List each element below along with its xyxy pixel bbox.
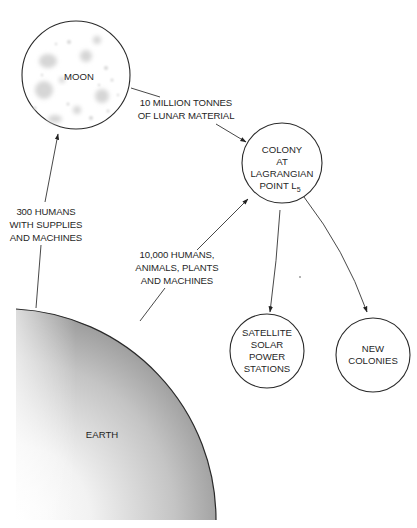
- earth-colony-label-line-1: 10,000 HUMANS,: [140, 249, 215, 260]
- space-colony-diagram: EARTH MOON COLONY: [0, 0, 417, 528]
- new-colonies-node: NEW COLONIES: [336, 318, 410, 392]
- earth-colony-label-line-3: AND MACHINES: [141, 275, 213, 286]
- moon-colony-label-line-2: OF LUNAR MATERIAL: [138, 110, 236, 121]
- moon-label: MOON: [64, 71, 94, 82]
- stray-dot: [299, 276, 301, 278]
- earth-colony-line-lower: [140, 288, 165, 321]
- moon-colony-line-start: [131, 88, 160, 97]
- earth-label: EARTH: [86, 429, 118, 440]
- satellite-node: SATELLITE SOLAR POWER STATIONS: [230, 314, 304, 388]
- moon-node: MOON: [22, 21, 130, 129]
- edge-colony-to-satellite: [270, 210, 280, 312]
- earth-moon-label-line-1: 300 HUMANS: [16, 206, 75, 217]
- colony-point-subscript: 5: [297, 186, 301, 193]
- satellite-label-line-1: SATELLITE: [242, 327, 292, 338]
- satellite-label-line-4: STATIONS: [244, 363, 291, 374]
- colony-label-line-3: LAGRANGIAN: [251, 168, 314, 179]
- new-colonies-label-line-2: COLONIES: [348, 355, 398, 366]
- new-colonies-label-line-1: NEW: [362, 343, 385, 354]
- moon-colony-label-line-1: 10 MILLION TONNES: [140, 97, 232, 108]
- edge-moon-to-colony: 10 MILLION TONNES OF LUNAR MATERIAL: [131, 88, 246, 142]
- colony-label-line-2: AT: [276, 156, 288, 167]
- moon-colony-line-end: [216, 124, 246, 142]
- earth-colony-line-upper: [197, 199, 248, 250]
- colony-node: COLONY AT LAGRANGIAN POINT L5: [242, 123, 322, 203]
- edge-earth-to-moon: 300 HUMANS WITH SUPPLIES AND MACHINES: [10, 134, 83, 308]
- earth-colony-label-line-2: ANIMALS, PLANTS: [135, 262, 218, 273]
- colony-label-line-1: COLONY: [262, 144, 303, 155]
- earth-node: EARTH: [16, 309, 216, 520]
- edge-colony-to-new-colonies: [304, 197, 367, 312]
- satellite-label-line-2: SOLAR: [251, 339, 284, 350]
- earth-moon-label-line-2: WITH SUPPLIES: [10, 219, 83, 230]
- earth-moon-line-upper: [45, 134, 58, 202]
- edge-earth-to-colony: 10,000 HUMANS, ANIMALS, PLANTS AND MACHI…: [135, 199, 248, 321]
- earth-moon-line-lower: [36, 245, 41, 308]
- earth-moon-label-line-3: AND MACHINES: [10, 232, 82, 243]
- satellite-label-line-3: POWER: [249, 351, 285, 362]
- colony-point-text: POINT L: [259, 180, 297, 191]
- colony-label-line-4: POINT L5: [259, 180, 300, 193]
